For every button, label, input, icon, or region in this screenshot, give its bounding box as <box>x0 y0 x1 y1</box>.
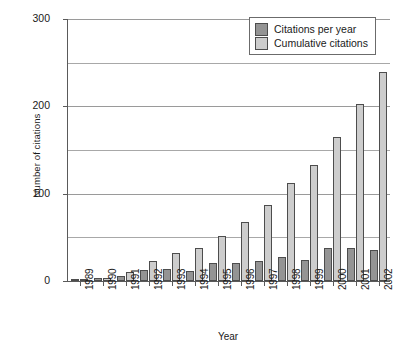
bar-1999-series-0 <box>301 260 309 281</box>
bar-1996-series-0 <box>232 263 240 281</box>
legend-swatch-icon <box>255 37 268 50</box>
legend-swatch-icon <box>255 23 268 36</box>
x-tick-mark <box>126 281 127 286</box>
x-tick-mark <box>356 281 357 286</box>
x-tick-label-2002: 2002 <box>383 269 394 290</box>
bar-1994-series-0 <box>186 271 194 281</box>
bar-group-2000 <box>324 19 341 281</box>
x-tick-label-2000: 2000 <box>337 269 348 290</box>
x-tick-label-1997: 1997 <box>268 269 279 290</box>
x-tick-mark <box>310 281 311 286</box>
x-tick-label-1995: 1995 <box>222 269 233 290</box>
x-tick-mark <box>195 281 196 286</box>
bar-2000-series-1 <box>333 137 341 281</box>
x-tick-mark <box>264 281 265 286</box>
x-tick-mark <box>287 281 288 286</box>
x-tick-label-1991: 1991 <box>130 269 141 290</box>
bar-group-1997 <box>255 19 272 281</box>
bar-group-2002 <box>370 19 387 281</box>
bar-1998-series-1 <box>287 183 295 281</box>
x-tick-label-1994: 1994 <box>199 269 210 290</box>
x-tick-mark <box>80 281 81 286</box>
legend-label: Cumulative citations <box>274 37 368 49</box>
bar-group-1991 <box>117 19 134 281</box>
y-tick-label: 300 <box>0 12 50 24</box>
x-axis-title: Year <box>67 331 389 342</box>
bar-group-1994 <box>186 19 203 281</box>
x-tick-label-1999: 1999 <box>314 269 325 290</box>
bar-1989-series-0 <box>71 279 79 281</box>
bar-1993-series-0 <box>163 269 171 281</box>
x-tick-label-1992: 1992 <box>153 269 164 290</box>
bar-group-2001 <box>347 19 364 281</box>
bar-1991-series-0 <box>117 276 125 281</box>
plot-area: 0100200300 19891990199119921993199419951… <box>67 19 390 282</box>
x-tick-mark <box>218 281 219 286</box>
x-tick-label-2001: 2001 <box>360 269 371 290</box>
x-tick-mark <box>379 281 380 286</box>
x-tick-mark <box>172 281 173 286</box>
x-tick-mark <box>333 281 334 286</box>
legend-item-1: Cumulative citations <box>255 36 368 50</box>
x-tick-label-1989: 1989 <box>84 269 95 290</box>
bar-group-1989 <box>71 19 88 281</box>
bar-2001-series-0 <box>347 248 355 281</box>
bar-1997-series-0 <box>255 261 263 281</box>
bar-group-1999 <box>301 19 318 281</box>
x-tick-label-1993: 1993 <box>176 269 187 290</box>
y-tick-label: 200 <box>0 99 50 111</box>
x-tick-label-1996: 1996 <box>245 269 256 290</box>
bar-group-1992 <box>140 19 157 281</box>
bar-group-1995 <box>209 19 226 281</box>
bar-1998-series-0 <box>278 257 286 281</box>
legend-label: Citations per year <box>274 23 356 35</box>
bar-2001-series-1 <box>356 104 364 281</box>
chart-legend: Citations per yearCumulative citations <box>249 17 376 55</box>
y-tick-label: 0 <box>0 274 50 286</box>
y-tick-mark <box>63 281 68 282</box>
x-tick-label-1998: 1998 <box>291 269 302 290</box>
bar-2002-series-0 <box>370 250 378 281</box>
bars-layer <box>68 19 390 281</box>
bar-1995-series-0 <box>209 263 217 281</box>
y-tick-label: 100 <box>0 187 50 199</box>
bar-1999-series-1 <box>310 165 318 281</box>
x-tick-label-1990: 1990 <box>107 269 118 290</box>
bar-1992-series-0 <box>140 270 148 281</box>
bar-1990-series-0 <box>94 278 102 281</box>
x-tick-mark <box>149 281 150 286</box>
x-tick-mark <box>103 281 104 286</box>
bar-group-1993 <box>163 19 180 281</box>
bar-group-1990 <box>94 19 111 281</box>
legend-item-0: Citations per year <box>255 22 368 36</box>
bar-2000-series-0 <box>324 248 332 281</box>
bar-group-1996 <box>232 19 249 281</box>
x-tick-mark <box>241 281 242 286</box>
bar-group-1998 <box>278 19 295 281</box>
bar-2002-series-1 <box>379 72 387 281</box>
citations-bar-chart: Number of citations 0100200300 198919901… <box>0 0 401 356</box>
